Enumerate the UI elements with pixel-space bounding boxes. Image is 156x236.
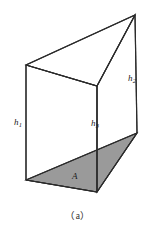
height-label-h3-subscript: 3	[96, 122, 99, 129]
height-label-h2: h2	[128, 74, 136, 83]
height-label-h2-subscript: 2	[133, 77, 136, 84]
prism-diagram	[0, 0, 156, 236]
top-face	[26, 15, 135, 86]
height-label-h1-symbol: h	[14, 117, 19, 127]
top-left-front-edge	[26, 65, 97, 86]
height-label-h3-symbol: h	[91, 118, 96, 128]
height-label-h1: h1	[14, 118, 22, 127]
top-back-edge	[26, 15, 135, 65]
area-label-a: A	[72, 172, 78, 181]
height-label-h2-symbol: h	[128, 73, 133, 83]
figure-container: h1 h2 h3 A （a）	[0, 0, 156, 236]
height-label-h1-subscript: 1	[19, 121, 22, 128]
height-label-h3: h3	[91, 119, 99, 128]
figure-caption: （a）	[0, 208, 156, 222]
